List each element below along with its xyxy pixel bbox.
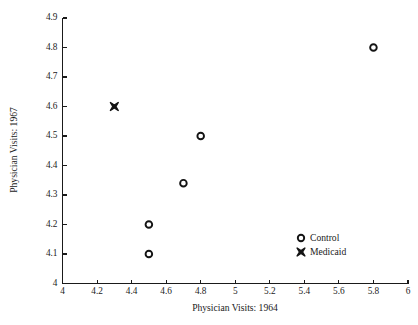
data-points-group	[110, 44, 377, 257]
legend-label: Control	[310, 232, 340, 243]
legend-item-control: Control	[298, 232, 340, 243]
data-point-control	[146, 251, 153, 258]
x-tick-label: 4.4	[126, 286, 138, 296]
scatter-plot-figure: 44.24.44.64.855.25.45.65.86 44.14.24.34.…	[0, 0, 418, 325]
data-point-control	[197, 133, 204, 140]
series-control	[146, 44, 377, 257]
y-axis-ticks: 44.14.24.34.44.54.64.74.84.9	[46, 12, 67, 288]
x-tick-label: 5.2	[264, 286, 276, 296]
y-tick-label: 4.2	[46, 219, 58, 229]
x-tick-label: 4.6	[160, 286, 172, 296]
plot-canvas: 44.24.44.64.855.25.45.65.86 44.14.24.34.…	[0, 0, 418, 325]
y-tick-label: 4.5	[46, 130, 58, 140]
x-tick-label: 4.8	[195, 286, 207, 296]
data-point-control	[180, 180, 187, 187]
y-tick-label: 4.6	[46, 101, 58, 111]
x-tick-label: 4	[60, 286, 65, 296]
y-tick-label: 4.1	[46, 248, 58, 258]
legend-item-medicaid: Medicaid	[297, 246, 347, 257]
x-tick-label: 5.6	[333, 286, 345, 296]
data-point-control	[146, 221, 153, 228]
x-tick-label: 4.2	[91, 286, 103, 296]
data-point-control	[370, 44, 377, 51]
x-axis-title: Physician Visits: 1964	[192, 302, 278, 313]
legend: ControlMedicaid	[297, 232, 347, 257]
series-medicaid	[110, 102, 118, 110]
x-tick-label: 5.4	[299, 286, 311, 296]
legend-label: Medicaid	[310, 246, 346, 257]
axis-lines	[62, 18, 408, 284]
legend-marker-filled-x-icon	[297, 248, 305, 256]
x-tick-label: 6	[406, 286, 411, 296]
y-tick-label: 4	[53, 278, 58, 288]
y-tick-label: 4.3	[46, 189, 58, 199]
data-point-medicaid	[110, 102, 118, 110]
y-tick-label: 4.9	[46, 12, 58, 22]
y-tick-label: 4.4	[46, 160, 58, 170]
x-tick-label: 5	[233, 286, 238, 296]
y-tick-label: 4.8	[46, 42, 58, 52]
y-tick-label: 4.7	[46, 71, 58, 81]
x-axis-ticks: 44.24.44.64.855.25.45.65.86	[60, 280, 411, 296]
x-tick-label: 5.8	[368, 286, 380, 296]
legend-marker-open-circle-icon	[298, 235, 304, 241]
y-axis-title: Physician Visits: 1967	[8, 107, 19, 193]
